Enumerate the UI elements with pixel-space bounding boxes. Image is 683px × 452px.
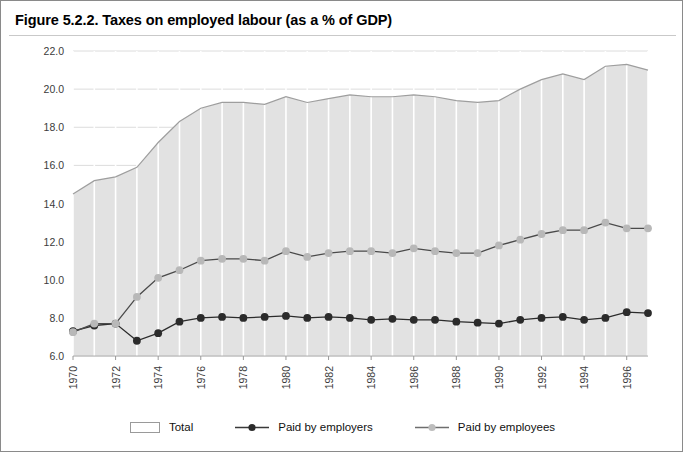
data-point	[133, 293, 141, 301]
data-point	[282, 247, 290, 255]
line-marker-gray-icon	[415, 422, 449, 433]
data-point	[325, 313, 333, 321]
data-point	[644, 309, 652, 317]
data-point	[580, 226, 588, 234]
data-point	[218, 313, 226, 321]
data-point	[282, 312, 290, 320]
y-tick-label: 6.0	[49, 350, 64, 362]
data-point	[410, 244, 418, 252]
x-tick-label: 1990	[493, 366, 505, 390]
y-tick-label: 14.0	[44, 198, 65, 210]
data-point	[367, 247, 375, 255]
data-point	[154, 329, 162, 337]
data-point	[176, 266, 184, 274]
data-point	[431, 247, 439, 255]
data-point	[303, 253, 311, 261]
legend-item-paid-by-employers: Paid by employers	[235, 421, 373, 433]
x-tick-label: 1976	[195, 366, 207, 390]
data-point	[538, 314, 546, 322]
x-tick-label: 1974	[152, 366, 164, 390]
data-point	[580, 316, 588, 324]
data-point	[389, 249, 397, 257]
x-tick-label: 1986	[408, 366, 420, 390]
data-point	[239, 314, 247, 322]
data-point	[325, 249, 333, 257]
x-tick-label: 1994	[578, 366, 590, 390]
data-point	[303, 314, 311, 322]
figure-container: Figure 5.2.2. Taxes on employed labour (…	[0, 0, 683, 452]
figure-title: Figure 5.2.2. Taxes on employed labour (…	[15, 12, 392, 28]
x-tick-label: 1992	[536, 366, 548, 390]
legend-item-paid-by-employees: Paid by employees	[415, 421, 555, 433]
x-tick-label: 1988	[450, 366, 462, 390]
data-point	[367, 316, 375, 324]
legend-item-total: Total	[130, 421, 193, 433]
data-point	[346, 314, 354, 322]
x-tick-label: 1996	[621, 366, 633, 390]
legend-label-total: Total	[169, 421, 193, 433]
taxes-area-chart: 6.08.010.012.014.016.018.020.022.0197019…	[9, 36, 676, 411]
data-point	[261, 257, 269, 265]
area-swatch-icon	[130, 422, 160, 433]
data-point	[431, 316, 439, 324]
data-point	[538, 230, 546, 238]
data-point	[516, 316, 524, 324]
data-point	[261, 313, 269, 321]
data-point	[452, 249, 460, 257]
data-point	[346, 247, 354, 255]
chart-legend: Total Paid by employers Paid by employee…	[1, 411, 683, 443]
data-point	[623, 308, 631, 316]
data-point	[474, 319, 482, 327]
data-point	[90, 320, 98, 328]
x-tick-label: 1982	[323, 366, 335, 390]
x-tick-label: 1984	[365, 366, 377, 390]
y-tick-label: 8.0	[49, 312, 64, 324]
data-point	[69, 328, 77, 336]
data-point	[644, 224, 652, 232]
y-tick-label: 16.0	[44, 159, 65, 171]
data-point	[559, 226, 567, 234]
data-point	[602, 219, 610, 227]
line-marker-dark-icon	[235, 422, 269, 433]
data-point	[495, 242, 503, 250]
data-point	[197, 314, 205, 322]
data-point	[602, 314, 610, 322]
data-point	[389, 315, 397, 323]
data-point	[410, 316, 418, 324]
data-point	[218, 255, 226, 263]
x-tick-label: 1980	[280, 366, 292, 390]
data-point	[495, 320, 503, 328]
y-tick-label: 12.0	[44, 236, 65, 248]
x-tick-label: 1970	[67, 366, 79, 390]
y-tick-label: 22.0	[44, 45, 65, 57]
data-point	[623, 224, 631, 232]
legend-label-paid-by-employers: Paid by employers	[278, 421, 373, 433]
data-point	[154, 274, 162, 282]
data-point	[559, 313, 567, 321]
data-point	[474, 249, 482, 257]
data-point	[133, 337, 141, 345]
legend-label-paid-by-employees: Paid by employees	[458, 421, 555, 433]
x-tick-label: 1972	[110, 366, 122, 390]
data-point	[112, 320, 120, 328]
y-tick-label: 18.0	[44, 121, 65, 133]
data-point	[516, 236, 524, 244]
data-point	[197, 257, 205, 265]
data-point	[176, 318, 184, 326]
chart-plot-area: 6.08.010.012.014.016.018.020.022.0197019…	[9, 36, 676, 411]
y-tick-label: 20.0	[44, 83, 65, 95]
x-tick-label: 1978	[237, 366, 249, 390]
y-tick-label: 10.0	[44, 274, 65, 286]
data-point	[452, 318, 460, 326]
data-point	[239, 255, 247, 263]
